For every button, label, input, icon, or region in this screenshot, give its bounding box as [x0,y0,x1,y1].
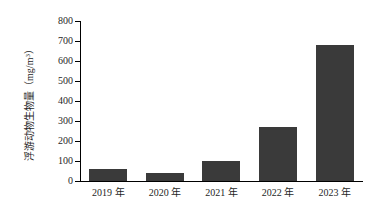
x-axis-tick-label: 2021 年 [205,188,238,198]
y-axis-tick-label: 800 [58,16,73,26]
x-axis-tick-label: 2019 年 [92,188,125,198]
bar-slot [137,21,194,181]
bar [259,127,297,181]
bar [316,45,354,181]
x-axis-tick-label: 2023 年 [318,188,351,198]
plot-area: 0100200300400500600700800 [80,21,363,181]
y-axis-title-close: ） [21,44,36,54]
y-axis-tick-label: 400 [58,96,73,106]
bar [146,173,184,181]
x-axis-line [80,181,363,182]
x-axis-labels: 2019 年2020 年2021 年2022 年2023 年 [80,188,363,206]
bar-slot [306,21,363,181]
y-axis-title-text: 浮游动物生物量（mg/m [21,58,36,161]
y-axis-tick-label: 300 [58,116,73,126]
bar [89,169,127,181]
y-axis-tick-label: 0 [68,176,73,186]
y-axis-title: 浮游动物生物量（mg/m3） [17,15,39,190]
y-axis-tick-mark [75,181,80,182]
bar-chart-figure: 浮游动物生物量（mg/m3） 0100200300400500600700800… [0,0,374,215]
y-axis-tick-label: 100 [58,156,73,166]
x-axis-tick-label: 2020 年 [149,188,182,198]
bar-slot [80,21,137,181]
y-axis-tick-label: 600 [58,56,73,66]
y-axis-tick-label: 500 [58,76,73,86]
x-axis-tick-label: 2022 年 [262,188,295,198]
y-axis-tick-label: 200 [58,136,73,146]
bar-slot [250,21,307,181]
bar [202,161,240,181]
bar-slot [193,21,250,181]
bar-series [80,21,363,181]
y-axis-tick-label: 700 [58,36,73,46]
